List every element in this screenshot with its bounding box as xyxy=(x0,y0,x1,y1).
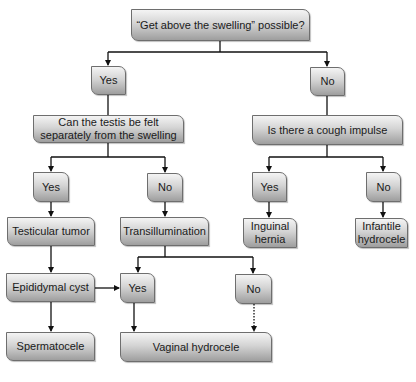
testis-question-node: Can the testis be felt separately from t… xyxy=(33,115,184,143)
testis-yes-label: Yes xyxy=(42,181,60,194)
testis-yes-node: Yes xyxy=(33,172,69,202)
testis-no-node: No xyxy=(147,173,183,202)
cough-question-label: Is there a cough impulse xyxy=(268,124,388,137)
cough-no-node: No xyxy=(366,172,401,202)
cough-question-node: Is there a cough impulse xyxy=(252,115,403,145)
inguinal-hernia-node: Inguinal hernia xyxy=(243,218,297,248)
testis-no-label: No xyxy=(158,181,172,194)
get-above-no-node: No xyxy=(310,67,345,96)
inguinal-hernia-label: Inguinal hernia xyxy=(250,220,290,246)
get-above-yes-node: Yes xyxy=(91,66,126,95)
flowchart-diagram: “Get above the swelling” possible? Yes N… xyxy=(0,0,416,382)
root-question-label: “Get above the swelling” possible? xyxy=(136,19,304,32)
infantile-hydrocele-label: Infantile hydrocele xyxy=(358,220,406,246)
vaginal-hydrocele-label: Vaginal hydrocele xyxy=(153,341,240,354)
epididymal-cyst-label: Epididymal cyst xyxy=(12,281,88,294)
transillumination-no-label: No xyxy=(246,283,260,296)
epididymal-cyst-node: Epididymal cyst xyxy=(6,273,95,302)
spermatocele-node: Spermatocele xyxy=(6,332,95,361)
cough-no-label: No xyxy=(376,181,390,194)
transillumination-node: Transillumination xyxy=(120,217,209,246)
testis-question-label: Can the testis be felt separately from t… xyxy=(36,116,181,142)
infantile-hydrocele-node: Infantile hydrocele xyxy=(355,218,408,248)
spermatocele-label: Spermatocele xyxy=(17,340,85,353)
testicular-tumor-label: Testicular tumor xyxy=(12,225,90,238)
get-above-no-label: No xyxy=(320,75,334,88)
transillumination-yes-label: Yes xyxy=(129,282,147,295)
cough-yes-label: Yes xyxy=(261,181,279,194)
get-above-yes-label: Yes xyxy=(100,74,118,87)
transillumination-no-node: No xyxy=(235,274,272,304)
transillumination-label: Transillumination xyxy=(123,225,206,238)
vaginal-hydrocele-node: Vaginal hydrocele xyxy=(120,332,272,362)
transillumination-yes-node: Yes xyxy=(120,273,155,303)
cough-yes-node: Yes xyxy=(252,172,287,202)
root-question-node: “Get above the swelling” possible? xyxy=(131,9,310,41)
testicular-tumor-node: Testicular tumor xyxy=(7,217,95,246)
